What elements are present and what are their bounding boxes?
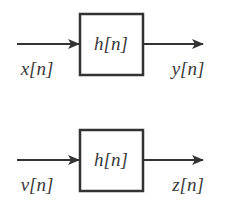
output-label: y[n] xyxy=(170,58,205,79)
system-1: h[n] x[n] y[n] xyxy=(17,14,204,79)
input-label: v[n] xyxy=(21,174,54,195)
input-label: x[n] xyxy=(20,58,54,79)
output-label: z[n] xyxy=(171,174,204,195)
system-2: h[n] v[n] z[n] xyxy=(17,130,204,195)
block-label: h[n] xyxy=(94,149,128,170)
block-diagram: h[n] x[n] y[n] h[n] v[n] z[n] xyxy=(0,0,226,205)
block-label: h[n] xyxy=(94,33,128,54)
